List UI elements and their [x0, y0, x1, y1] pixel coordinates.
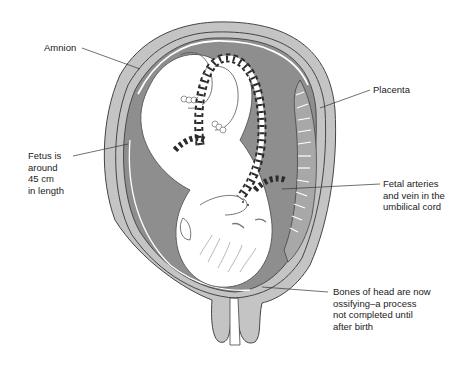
- label-head-bones: Bones of head are now ossifying–a proces…: [333, 286, 431, 332]
- label-fetus-length: Fetus is around 45 cm in length: [28, 150, 64, 196]
- fetus-uterus-diagram: Amnion Placenta Fetus is around 45 cm in…: [0, 0, 471, 366]
- label-amnion: Amnion: [44, 42, 76, 54]
- label-umbilical-cord: Fetal arteries and vein in the umbilical…: [383, 178, 445, 213]
- label-placenta: Placenta: [373, 84, 410, 96]
